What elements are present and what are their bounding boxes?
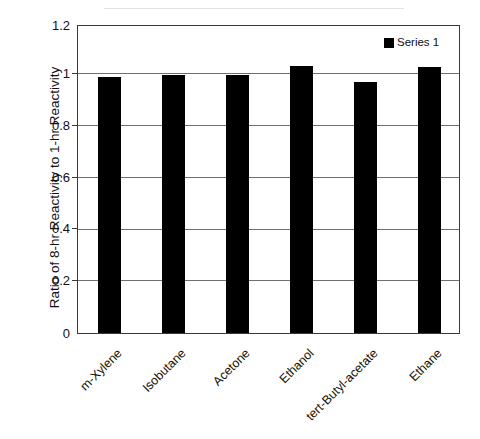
x-label-ethane: Ethane <box>336 347 444 439</box>
bar-chart-figure: Ratio of 8-hr Reactivity to 1-hr Reactiv… <box>0 0 480 439</box>
x-axis-tick-labels: m-Xylene Isobutane Acetone Ethanol tert-… <box>0 0 480 439</box>
